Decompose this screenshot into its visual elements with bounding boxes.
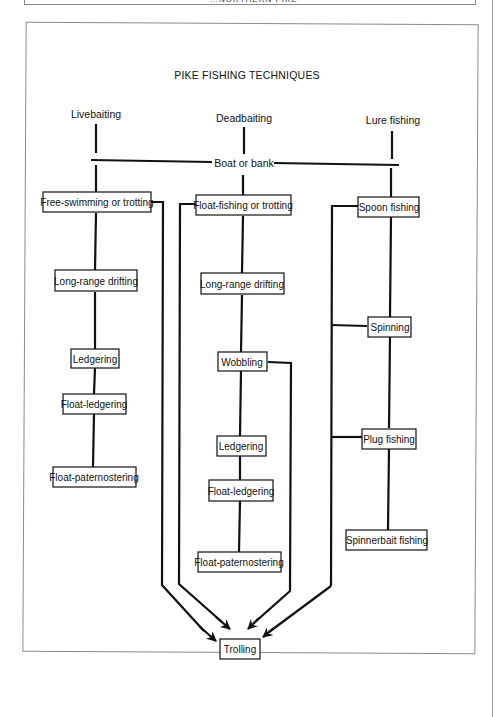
node-spinnerbait-fishing: Spinnerbait fishing — [346, 530, 428, 550]
node-dead-float-paternostering: Float-paternostering — [194, 552, 284, 572]
svg-text:Spinnerbait fishing: Spinnerbait fishing — [346, 535, 428, 546]
column-header-deadbaiting: Deadbaiting — [216, 112, 272, 124]
svg-text:Free-swimming or trotting: Free-swimming or trotting — [40, 197, 153, 208]
shared-label-boat-or-bank: Boat or bank — [214, 157, 274, 169]
svg-text:Float-fishing or trotting: Float-fishing or trotting — [193, 200, 293, 211]
node-dead-long-range-drifting: Long-range drifting — [200, 273, 284, 294]
node-wobbling: Wobbling — [218, 352, 267, 371]
node-spoon-fishing: Spoon fishing — [358, 197, 419, 217]
svg-text:Float-paternostering: Float-paternostering — [49, 472, 139, 483]
svg-text:Ledgering: Ledgering — [73, 354, 117, 365]
node-spinning: Spinning — [368, 317, 411, 337]
column-header-lure-fishing: Lure fishing — [366, 114, 420, 126]
node-trolling: Trolling — [220, 639, 260, 659]
node-live-ledgering: Ledgering — [71, 349, 119, 368]
diagram-title: PIKE FISHING TECHNIQUES — [174, 69, 320, 81]
column-header-livebaiting: Livebaiting — [71, 108, 121, 120]
svg-text:Long-range drifting: Long-range drifting — [54, 276, 138, 287]
svg-text:Spinning: Spinning — [371, 322, 410, 333]
node-dead-float-ledgering: Float-ledgering — [208, 480, 275, 501]
node-plug-fishing: Plug fishing — [362, 429, 416, 449]
svg-text:Long-range drifting: Long-range drifting — [200, 279, 284, 290]
svg-text:Wobbling: Wobbling — [221, 357, 263, 368]
node-dead-ledgering: Ledgering — [217, 436, 266, 456]
node-live-float-ledgering: Float-ledgering — [61, 394, 128, 414]
flowchart: PIKE FISHING TECHNIQUES Livebaiting Dead… — [0, 0, 496, 717]
svg-text:Ledgering: Ledgering — [219, 441, 263, 452]
arrowheads — [199, 617, 274, 641]
node-live-long-range-drifting: Long-range drifting — [54, 270, 138, 291]
svg-text:Spoon fishing: Spoon fishing — [359, 202, 420, 213]
svg-text:Float-ledgering: Float-ledgering — [61, 399, 128, 410]
svg-text:Plug fishing: Plug fishing — [363, 434, 415, 445]
node-float-fishing-or-trotting: Float-fishing or trotting — [193, 195, 293, 215]
node-live-float-paternostering: Float-paternostering — [49, 467, 139, 487]
svg-text:Float-paternostering: Float-paternostering — [194, 557, 284, 568]
svg-text:Trolling: Trolling — [224, 644, 256, 655]
svg-text:Float-ledgering: Float-ledgering — [208, 486, 275, 497]
node-free-swimming-or-trotting: Free-swimming or trotting — [40, 192, 153, 212]
